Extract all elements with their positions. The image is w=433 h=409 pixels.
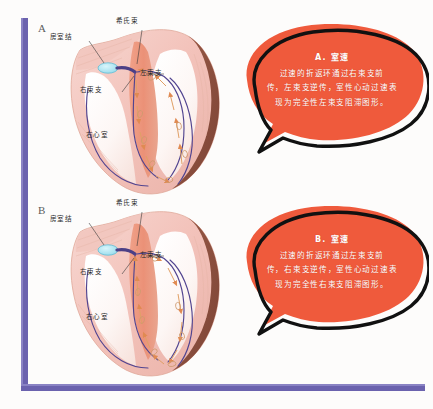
label-right-bundle-branch-a: 右束支 [80, 87, 102, 94]
callout-line-1-b: 过速的折返环通过左束支前 [249, 249, 415, 264]
callout-title-a: A. 室速 [249, 51, 415, 66]
label-right-bundle-branch-b: 右束支 [80, 269, 102, 276]
label-right-ventricle-b: 右心室 [86, 314, 108, 321]
label-his-bundle-b: 希氏束 [116, 200, 138, 207]
frame-left-border [21, 18, 28, 391]
callout-bubble-a: A. 室速 过速的折返环通过右束支前 传，左束支逆传，室性心动过速表 现为完全性… [233, 18, 429, 178]
av-node-shape [98, 245, 118, 255]
panel-a: A [28, 14, 428, 202]
callout-line-2-a: 传，左束支逆传，室性心动过速表 [249, 81, 415, 96]
label-right-ventricle-a: 右心室 [86, 132, 108, 139]
label-left-bundle-branch-b: 左束支 [140, 252, 162, 259]
frame-bottom-border [21, 384, 425, 391]
callout-line-2-b: 传，右束支逆传，室性心动过速表 [249, 263, 415, 278]
label-left-bundle-branch-a: 左束支 [140, 70, 162, 77]
label-his-bundle-a: 希氏束 [116, 18, 138, 25]
callout-line-3-a: 现为完全性左束支阻滞图形。 [249, 96, 415, 111]
callout-bubble-b: B. 室速 过速的折返环通过左束支前 传，右束支逆传，室性心动过速表 现为完全性… [233, 200, 429, 360]
callout-text-a: A. 室速 过速的折返环通过右束支前 传，左束支逆传，室性心动过速表 现为完全性… [249, 51, 415, 110]
callout-title-b: B. 室速 [249, 233, 415, 248]
label-av-node-b: 房室结 [50, 216, 72, 223]
callout-line-3-b: 现为完全性右束支阻滞图形。 [249, 278, 415, 293]
callout-text-b: B. 室速 过速的折返环通过左束支前 传，右束支逆传，室性心动过速表 现为完全性… [249, 233, 415, 292]
callout-line-1-a: 过速的折返环通过右束支前 [249, 67, 415, 82]
heart-cutaway-diagram-a [42, 14, 242, 202]
heart-cutaway-diagram-b [42, 196, 242, 384]
label-av-node-a: 房室结 [50, 34, 72, 41]
figure-root: A [0, 0, 433, 409]
av-node-shape [98, 63, 118, 73]
panel-b: B [28, 196, 428, 384]
